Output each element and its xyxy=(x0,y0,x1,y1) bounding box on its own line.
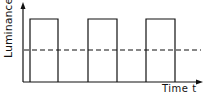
y-axis-arrow-icon xyxy=(21,2,26,9)
x-axis-arrow-icon xyxy=(196,80,203,85)
x-axis-label: Time t xyxy=(162,83,197,94)
y-axis-label: Luminance xyxy=(2,0,15,58)
